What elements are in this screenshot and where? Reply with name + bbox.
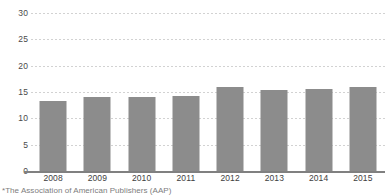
bar-slot-2011 — [164, 0, 208, 171]
x-tick-label-2012: 2012 — [208, 174, 252, 183]
bar-2013[interactable] — [261, 90, 288, 171]
bar-chart: 30 25 20 15 10 5 0 2008 2009 2010 2011 2… — [0, 0, 390, 195]
bar-2009[interactable] — [84, 97, 111, 171]
bar-2015[interactable] — [349, 87, 376, 171]
y-tick-label-5: 5 — [2, 141, 28, 150]
y-axis-labels: 30 25 20 15 10 5 0 — [0, 0, 28, 195]
y-tick-label-30: 30 — [2, 9, 28, 18]
bar-slot-2014 — [297, 0, 341, 171]
x-axis-line — [24, 171, 385, 173]
bar-slot-2009 — [75, 0, 119, 171]
y-tick-label-15: 15 — [2, 88, 28, 97]
y-tick-label-20: 20 — [2, 62, 28, 71]
x-tick-label-2013: 2013 — [252, 174, 296, 183]
bar-slot-2008 — [31, 0, 75, 171]
bar-2012[interactable] — [217, 87, 244, 171]
x-tick-label-2008: 2008 — [31, 174, 75, 183]
x-tick-label-2014: 2014 — [297, 174, 341, 183]
bar-2011[interactable] — [172, 96, 199, 171]
x-tick-label-2009: 2009 — [75, 174, 119, 183]
bar-slot-2010 — [120, 0, 164, 171]
bar-slot-2013 — [252, 0, 296, 171]
y-tick-label-25: 25 — [2, 35, 28, 44]
bar-slot-2015 — [341, 0, 385, 171]
x-tick-label-2011: 2011 — [164, 174, 208, 183]
bar-2010[interactable] — [128, 97, 155, 171]
x-tick-label-2015: 2015 — [341, 174, 385, 183]
bar-slot-2012 — [208, 0, 252, 171]
bar-series — [31, 0, 385, 171]
y-tick-label-10: 10 — [2, 114, 28, 123]
bar-2014[interactable] — [305, 89, 332, 171]
x-axis-labels: 2008 2009 2010 2011 2012 2013 2014 2015 — [31, 174, 385, 186]
bar-2008[interactable] — [40, 101, 67, 171]
x-tick-label-2010: 2010 — [120, 174, 164, 183]
chart-footnote: *The Association of American Publishers … — [2, 187, 171, 195]
